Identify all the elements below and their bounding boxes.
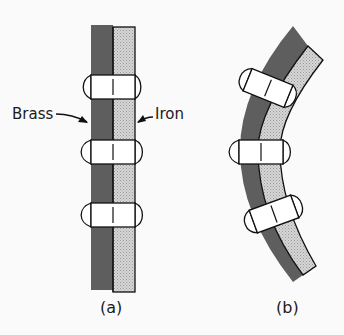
- panel-a-label: (a): [100, 298, 122, 317]
- rivet: [83, 75, 141, 99]
- panel-a: Brass Iron (a): [12, 25, 184, 317]
- rivet: [229, 140, 290, 164]
- brass-arrow-icon: [56, 114, 88, 123]
- brass-label: Brass: [12, 105, 53, 123]
- bimetallic-strip-figure: Brass Iron (a): [0, 0, 344, 335]
- iron-arrow-icon: [137, 115, 153, 123]
- panel-b: (b): [229, 26, 323, 317]
- rivet: [81, 203, 142, 227]
- iron-label: Iron: [155, 105, 184, 123]
- rivet: [81, 140, 142, 164]
- panel-b-label: (b): [276, 298, 299, 317]
